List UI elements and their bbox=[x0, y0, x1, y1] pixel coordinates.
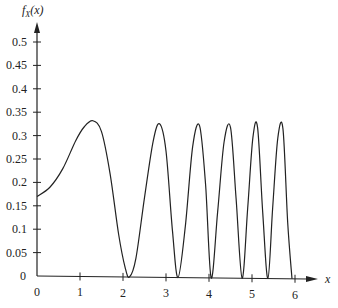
x-tick-label: 1 bbox=[77, 285, 83, 299]
y-tick-label: 0.5 bbox=[12, 35, 27, 49]
x-tick-label: 0 bbox=[34, 285, 40, 299]
y-tick-label: 0.4 bbox=[12, 82, 27, 96]
y-tick-label: 0.3 bbox=[12, 129, 27, 143]
y-tick-label: 0 bbox=[20, 269, 26, 283]
x-tick-label: 4 bbox=[206, 287, 212, 301]
x-tick-label: 2 bbox=[120, 286, 126, 300]
y-tick-label: 0.45 bbox=[6, 58, 27, 72]
x-axis: 0123456 x bbox=[34, 272, 331, 302]
y-tick-label: 0.05 bbox=[6, 246, 27, 260]
x-axis-label: x bbox=[324, 272, 331, 286]
chart-canvas: 00.050.10.150.20.250.30.350.40.450.5 fX(… bbox=[0, 0, 338, 308]
y-tick-label: 0.1 bbox=[12, 222, 27, 236]
density-curve bbox=[37, 121, 292, 279]
y-axis-arrow-icon bbox=[34, 22, 40, 33]
x-tick-label: 3 bbox=[163, 286, 169, 300]
y-tick-label: 0.15 bbox=[6, 199, 27, 213]
y-ticks: 00.050.10.150.20.250.30.350.40.450.5 bbox=[6, 35, 41, 283]
x-axis-arrow-icon bbox=[306, 276, 318, 282]
x-tick-label: 6 bbox=[292, 288, 298, 302]
x-tick-label: 5 bbox=[249, 287, 255, 301]
y-tick-label: 0.2 bbox=[12, 175, 27, 189]
y-tick-label: 0.25 bbox=[6, 152, 27, 166]
y-tick-label: 0.35 bbox=[6, 105, 27, 119]
y-axis: 00.050.10.150.20.250.30.350.40.450.5 fX(… bbox=[6, 3, 44, 283]
y-axis-label: fX(x) bbox=[22, 3, 44, 19]
